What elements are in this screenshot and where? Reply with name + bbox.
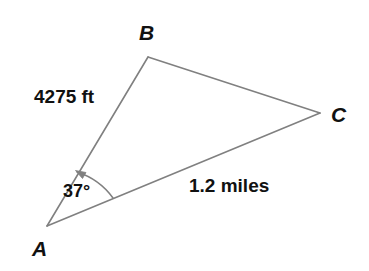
side-ac-line (47, 113, 320, 226)
triangle-diagram: A B C 4275 ft 1.2 miles 37° (0, 0, 369, 271)
side-bc-line (148, 57, 320, 113)
side-ac-length-label: 1.2 miles (189, 176, 269, 195)
triangle-figure (0, 0, 369, 271)
vertex-label-a: A (32, 238, 47, 259)
angle-a-measure-label: 37° (63, 182, 90, 200)
side-ab-length-label: 4275 ft (34, 87, 94, 106)
vertex-label-b: B (139, 22, 154, 43)
vertex-label-c: C (331, 104, 346, 125)
